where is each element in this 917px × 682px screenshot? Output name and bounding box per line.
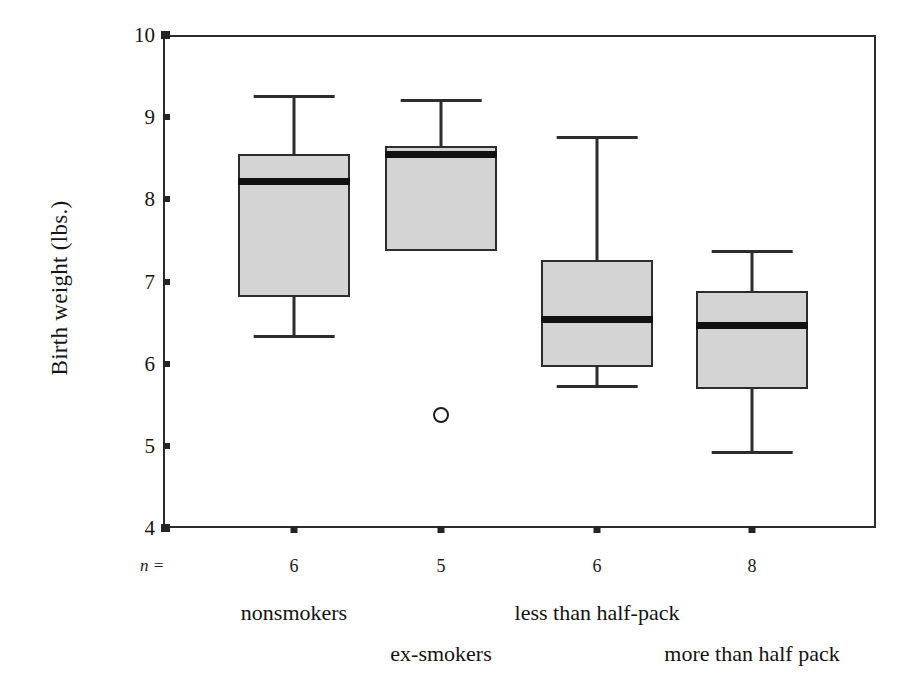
whisker-stem-lower: [751, 389, 754, 451]
y-axis-tick-labels: 45678910: [105, 0, 155, 682]
median-line: [385, 151, 497, 158]
box-rect: [238, 154, 350, 297]
y-tick-label: 8: [115, 187, 155, 212]
y-tick-label: 9: [115, 105, 155, 130]
sample-size-value: 6: [290, 556, 299, 577]
x-category-label: ex-smokers: [390, 641, 491, 667]
box-rect: [541, 260, 653, 367]
y-tick-label: 4: [115, 516, 155, 541]
y-axis-title: Birth weight (lbs.): [47, 158, 73, 418]
y-tick-mark: [163, 361, 170, 367]
sample-size-value: 8: [748, 556, 757, 577]
x-tick-mark: [749, 526, 756, 533]
y-tick-mark: [163, 279, 170, 285]
y-tick-mark: [163, 114, 170, 120]
whisker-cap-upper: [712, 250, 793, 253]
whisker-cap-upper: [254, 95, 335, 98]
y-tick-label: 5: [115, 433, 155, 458]
whisker-cap-lower: [712, 451, 793, 454]
x-category-label: nonsmokers: [241, 600, 347, 626]
box-rect: [385, 146, 497, 251]
y-axis-corner-mark: [161, 524, 170, 532]
sample-size-value: 6: [593, 556, 602, 577]
whisker-cap-upper: [401, 99, 482, 102]
median-line: [541, 316, 653, 323]
whisker-stem-lower: [596, 367, 599, 385]
whisker-stem-upper: [596, 136, 599, 260]
box-rect: [696, 291, 808, 389]
whisker-cap-lower: [557, 385, 638, 388]
x-tick-mark: [291, 526, 298, 533]
y-tick-label: 7: [115, 269, 155, 294]
median-line: [238, 178, 350, 185]
y-axis-corner-mark: [161, 31, 170, 39]
x-category-label: more than half pack: [664, 641, 839, 667]
whisker-cap-lower: [254, 335, 335, 338]
x-tick-mark: [594, 526, 601, 533]
x-tick-mark: [438, 526, 445, 533]
y-tick-mark: [163, 443, 170, 449]
whisker-stem-upper: [751, 250, 754, 291]
y-tick-mark: [163, 196, 170, 202]
y-tick-label: 6: [115, 351, 155, 376]
whisker-cap-upper: [557, 136, 638, 139]
outlier-point: [433, 407, 449, 423]
median-line: [696, 322, 808, 329]
x-category-label: less than half-pack: [515, 600, 680, 626]
whisker-stem-upper: [440, 99, 443, 146]
sample-size-value: 5: [437, 556, 446, 577]
boxplot-figure: Birth weight (lbs.) 45678910 6nonsmokers…: [0, 0, 917, 682]
whisker-stem-lower: [293, 297, 296, 335]
sample-size-prefix: n =: [140, 556, 164, 576]
whisker-stem-upper: [293, 95, 296, 154]
y-tick-label: 10: [115, 23, 155, 48]
plot-area: [163, 35, 876, 528]
